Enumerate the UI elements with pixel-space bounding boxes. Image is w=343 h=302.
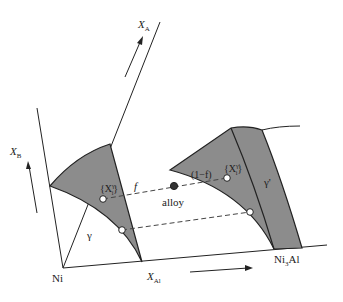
gamma-prime-lower-point: [247, 209, 254, 216]
gamma-lower-point: [119, 227, 126, 234]
x-b-arrowhead-icon: [26, 161, 31, 169]
x-al-arrow: [190, 268, 248, 272]
x-al-arrowhead-icon: [245, 265, 253, 271]
alloy-label: alloy: [162, 196, 184, 208]
gamma-phase-field: [50, 144, 142, 262]
ni3al-compound-label: Ni3Al: [274, 253, 300, 268]
alloy-point: [170, 182, 177, 189]
x-al-axis-label: XAl: [146, 270, 161, 285]
x-b-axis-label: XB: [9, 145, 22, 160]
gamma-phase-label: γ: [86, 229, 92, 241]
tie-line-lower: [122, 212, 250, 230]
x-a-axis-label: XA: [137, 18, 150, 33]
gamma-prime-region: [170, 126, 302, 249]
gamma-prime-composition-point: [224, 175, 231, 182]
gamma-region: [50, 144, 142, 262]
gamma-prime-fraction-label: (1−f): [191, 169, 212, 181]
gamma-fraction-label: f: [134, 180, 139, 192]
gamma-composition-point: [100, 196, 107, 203]
x-b-arrow: [29, 166, 37, 213]
phase-diagram: XA XB XAl Ni Ni3Al γ γ' alloy f (1−f) {X…: [0, 0, 343, 302]
gamma-prime-solvus-extension: [262, 126, 300, 130]
x-a-arrow: [125, 40, 141, 77]
x-a-axis-line: [63, 22, 160, 268]
x-a-arrowhead-icon: [137, 36, 143, 45]
gamma-prime-two-phase-field: [170, 127, 302, 249]
ni-corner-label: Ni: [52, 272, 63, 284]
gamma-prime-phase-label: γ': [263, 176, 271, 188]
